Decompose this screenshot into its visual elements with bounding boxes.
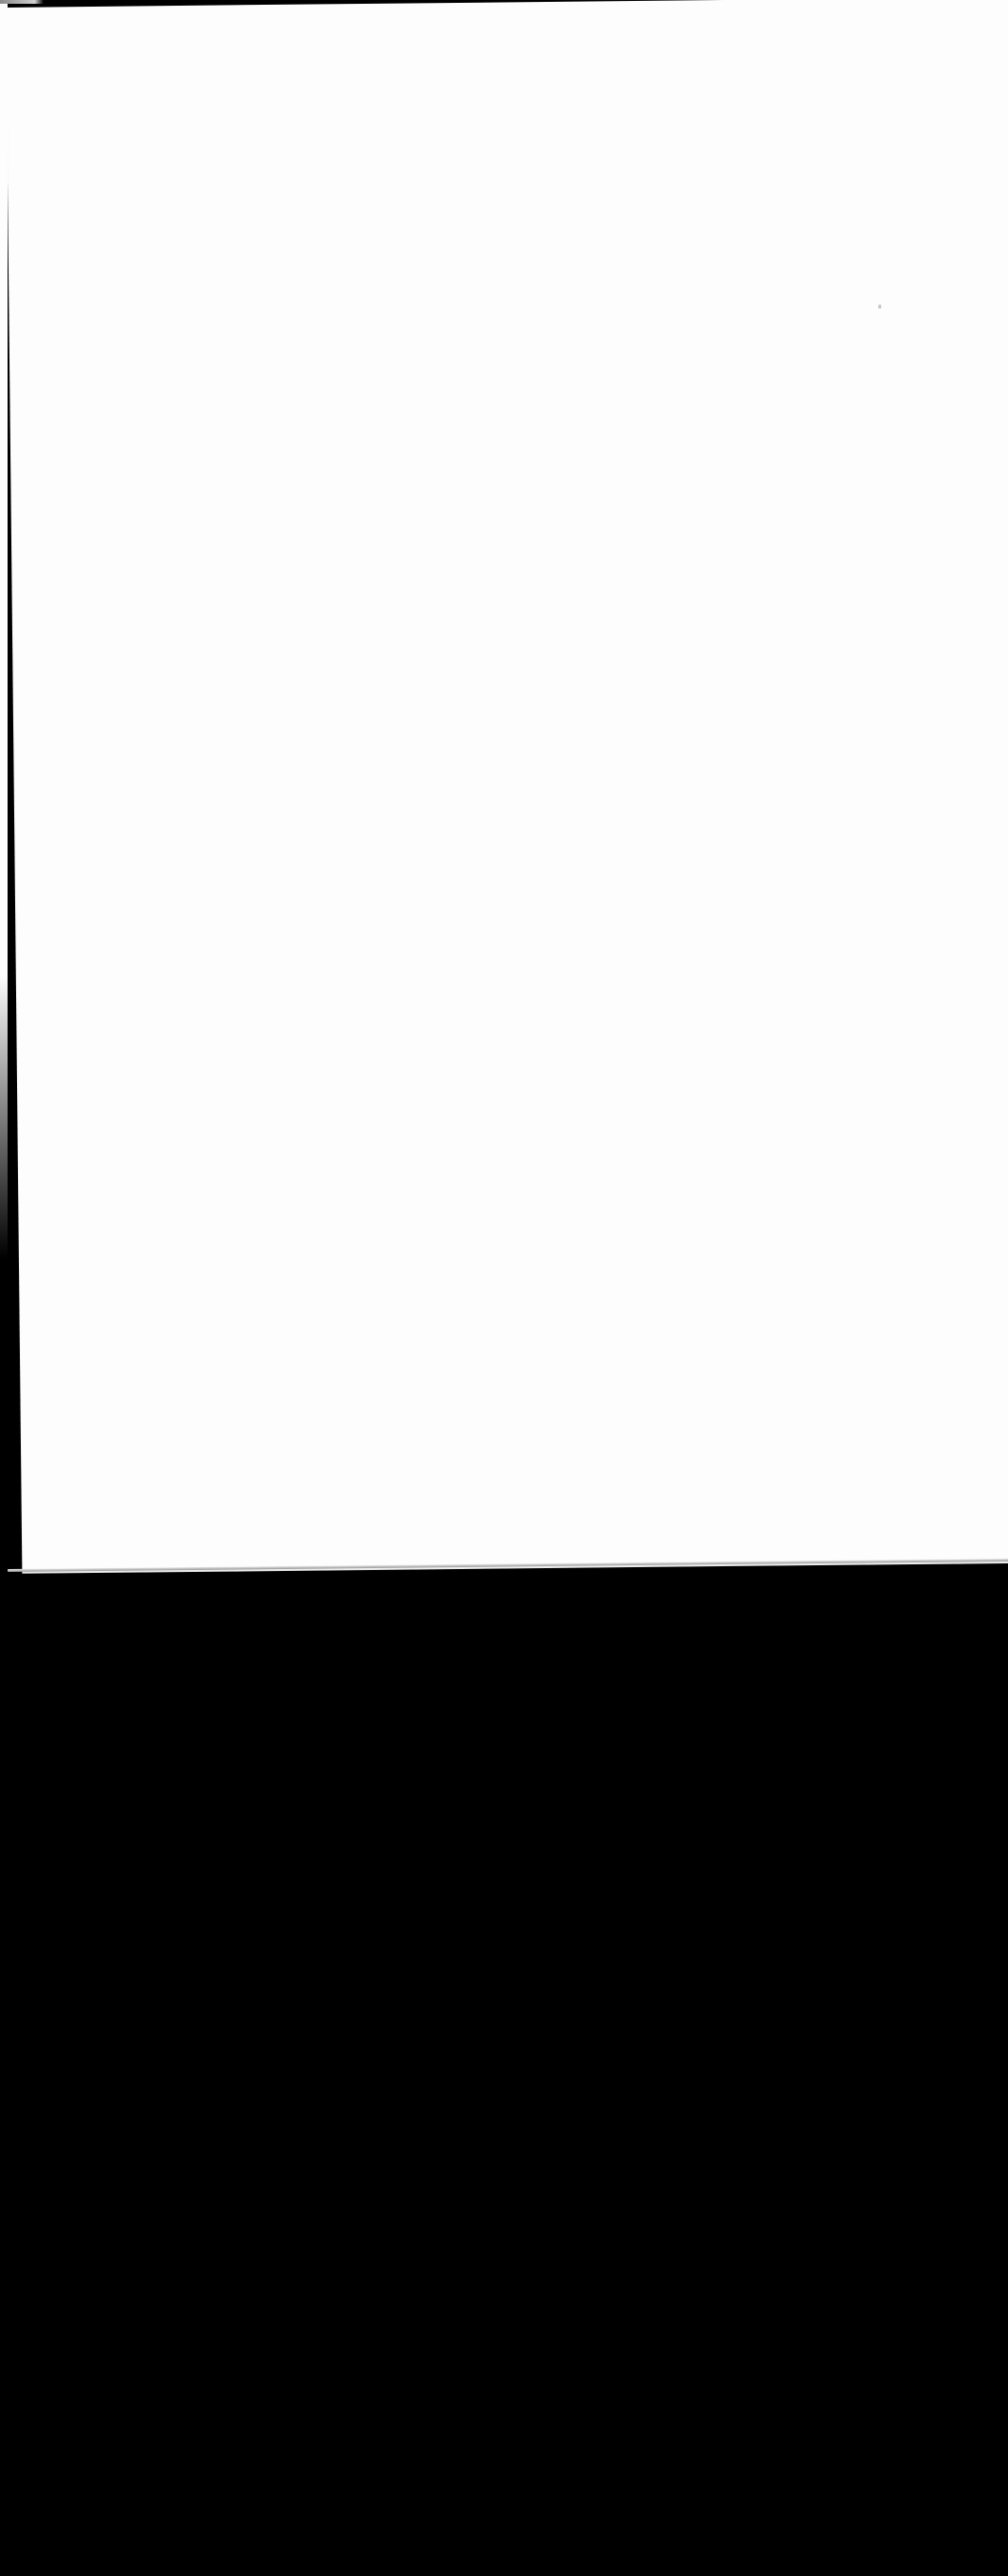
scan-canvas [0,0,1008,2576]
scan-smudge [0,0,44,4]
page-left-edge-shadow [0,0,8,1573]
scan-speck [878,305,881,309]
blank-document-page [6,0,1008,1574]
